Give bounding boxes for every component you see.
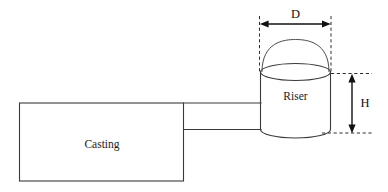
riser-label: Riser [283, 90, 307, 102]
casting-label: Casting [84, 138, 119, 151]
arrow-right-icon [322, 20, 331, 27]
diameter-label: D [291, 7, 300, 21]
height-label: H [360, 96, 369, 110]
casting-riser-diagram: D H Casting Riser [0, 0, 388, 192]
neck-channel [184, 103, 262, 130]
arrow-left-icon [260, 20, 269, 27]
riser-bottom-arc [261, 130, 331, 138]
arrow-up-icon [348, 74, 355, 83]
riser-top-ellipse [261, 64, 331, 81]
diagram-canvas: D H Casting Riser [0, 0, 388, 192]
arrow-down-icon [348, 124, 355, 133]
